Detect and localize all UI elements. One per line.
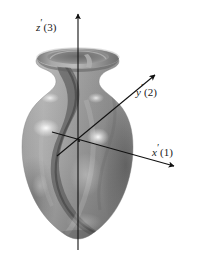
x-axis-number: (1) bbox=[160, 146, 173, 158]
x-axis-prime: ′ bbox=[156, 142, 158, 153]
axes-overlay bbox=[0, 0, 198, 258]
x-axis-label: x′(1) bbox=[152, 143, 173, 158]
y-axis-label: y′(2) bbox=[136, 83, 157, 98]
z-axis-label: z′(3) bbox=[36, 18, 56, 33]
figure-canvas: z′(3) y′(2) x′(1) bbox=[0, 0, 198, 258]
origin-point bbox=[78, 140, 80, 142]
y-axis-prime: ′ bbox=[140, 82, 142, 93]
z-axis-prime: ′ bbox=[40, 17, 42, 28]
z-axis-number: (3) bbox=[43, 21, 56, 33]
y-axis-number: (2) bbox=[144, 86, 157, 98]
